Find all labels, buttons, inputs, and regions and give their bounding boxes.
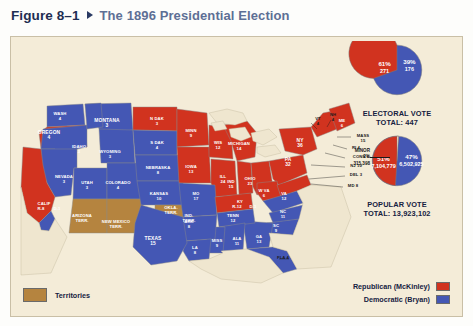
- minor-pct: 2%: [336, 154, 370, 161]
- vote-statistics: 61% 271 39% 176 ELECTORAL VOTE TOTAL: 44…: [338, 41, 456, 218]
- state-votes-pa: 32: [285, 162, 291, 167]
- territory-sub-arizona: TERR.: [75, 218, 88, 223]
- state-votes-ga: 13: [257, 239, 262, 244]
- legend-label-territories: Territories: [55, 291, 90, 300]
- legend-label-republican: Republican (McKinley): [353, 282, 430, 291]
- popular-vote-block: MINOR 2% 315,398 51% 7,104,779 47% 6,502…: [338, 132, 456, 219]
- electoral-caption-line1: ELECTORAL VOTE: [338, 109, 456, 118]
- minor-leader-line: [370, 157, 390, 158]
- state-votes-va: 12: [282, 196, 287, 201]
- popular-dem-pct: 47%: [405, 152, 418, 159]
- electoral-vote-block: 61% 271 39% 176 ELECTORAL VOTE TOTAL: 44…: [338, 41, 456, 128]
- electoral-vote-pie: 61% 271 39% 176: [338, 41, 456, 103]
- legend-label-democratic: Democratic (Bryan): [364, 295, 430, 304]
- state-votes-texas: 15: [150, 241, 156, 246]
- territory-sub-okla: TERR.: [164, 210, 177, 215]
- popular-rep-value: 7,104,779: [371, 163, 395, 169]
- figure-number: Figure 8–1: [11, 8, 80, 23]
- legend-swatch-territories: [23, 288, 47, 302]
- state-votes-tenn: 12: [231, 218, 236, 223]
- electoral-caption-line2: TOTAL: 447: [338, 118, 456, 127]
- state-votes-ny: 36: [297, 143, 303, 148]
- state-label-calif: CALIF: [38, 201, 51, 206]
- figure-title: The 1896 Presidential Election: [100, 8, 290, 23]
- state-votes-dem-calif: D-1: [53, 206, 61, 211]
- legend-item-republican: Republican (McKinley): [353, 282, 450, 291]
- popular-dem-value: 6,502,925: [399, 161, 423, 167]
- popular-rep-pct: 51%: [377, 154, 390, 161]
- electoral-rep-value: 271: [380, 68, 389, 74]
- state-votes-ohio: 23: [248, 181, 253, 186]
- minor-value: 315,398: [336, 161, 370, 168]
- state-votes-idaho: 3: [78, 149, 81, 154]
- electoral-dem-value: 176: [405, 66, 414, 72]
- figure-root: Figure 8–1 The 1896 Presidential Electio…: [0, 0, 473, 326]
- legend-item-democratic: Democratic (Bryan): [364, 295, 450, 304]
- us-election-map: .R { fill:#d1331f; stroke:#8a8a8a; strok…: [11, 37, 462, 316]
- territory-sub-new-mexico: TERR.: [109, 224, 122, 229]
- minor-vote-annotation: MINOR 2% 315,398: [336, 148, 370, 168]
- legend-swatch-republican: [436, 282, 450, 291]
- state-votes-nc: 11: [281, 214, 286, 219]
- state-votes-montana: 3: [106, 123, 109, 128]
- state-votes-ill: 24: [221, 179, 226, 184]
- electoral-dem-pct: 39%: [403, 58, 416, 65]
- state-votes-rep-ky: R-12: [232, 204, 242, 209]
- legend-swatch-democratic: [436, 295, 450, 304]
- figure-caption: Figure 8–1 The 1896 Presidential Electio…: [11, 8, 290, 23]
- electoral-rep-pct: 61%: [378, 60, 391, 67]
- minor-label: MINOR: [336, 148, 370, 155]
- triangle-marker-icon: [87, 11, 93, 19]
- state-votes-rep-calif: R-8: [37, 206, 45, 211]
- territories-legend: Territories: [23, 288, 90, 302]
- state-votes-wis: 12: [216, 145, 221, 150]
- electoral-vote-caption: ELECTORAL VOTE TOTAL: 447: [338, 109, 456, 128]
- callout-label-fla-4: FLA 4: [277, 255, 290, 260]
- party-legend: Republican (McKinley) Democratic (Bryan): [353, 282, 450, 304]
- popular-vote-caption: POPULAR VOTE TOTAL: 13,923,102: [338, 200, 456, 219]
- popular-caption-line1: POPULAR VOTE: [338, 200, 456, 209]
- state-votes-ala: 11: [235, 241, 240, 246]
- state-votes-kansas: 10: [157, 196, 162, 201]
- state-votes-iowa: 13: [189, 169, 194, 174]
- territory-sub-ind: TERR.: [182, 218, 195, 223]
- state-votes-dem-ky: D-1: [249, 204, 257, 209]
- state-votes-mo: 17: [194, 196, 199, 201]
- popular-caption-line2: TOTAL: 13,923,102: [338, 209, 456, 218]
- state-label-ky: KY: [237, 199, 243, 204]
- state-votes-ind: 15: [229, 184, 234, 189]
- state-votes-oregon: 4: [48, 135, 51, 140]
- state-votes-michigan: 14: [237, 146, 242, 151]
- map-panel: .R { fill:#d1331f; stroke:#8a8a8a; strok…: [10, 36, 463, 317]
